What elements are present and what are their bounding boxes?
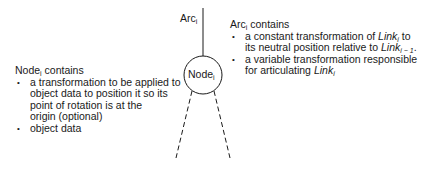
node-bullet-transformation: a transformation to be applied to object… xyxy=(15,77,181,123)
bullet-line: for articulating Linki xyxy=(245,65,417,77)
link-term: Link xyxy=(314,64,333,76)
text: its neutral position relative to xyxy=(245,41,381,53)
link-sub: i xyxy=(333,70,335,77)
text: for articulating xyxy=(245,64,314,76)
bullet-line: object data to position it so its xyxy=(30,88,181,100)
bullet-line: origin (optional) xyxy=(30,111,181,123)
arc-label-base: Arc xyxy=(180,12,196,24)
arc-heading-base: Arc xyxy=(230,18,246,30)
node-label: Nodei xyxy=(188,68,215,80)
text: a constant transformation of xyxy=(245,30,378,42)
bullet-line: object data xyxy=(30,123,181,135)
arc-bullet-variable-transformation: a variable transformation responsible fo… xyxy=(230,54,417,77)
node-bullet-object-data: object data xyxy=(15,123,181,135)
arc-info-bullets: a constant transformation of Linki to it… xyxy=(230,31,417,77)
arc-label-sub: i xyxy=(196,18,198,25)
arc-label: Arci xyxy=(180,13,197,25)
node-info-heading: Nodei contains xyxy=(15,65,181,77)
arc-bullet-constant-transformation: a constant transformation of Linki to it… xyxy=(230,31,417,54)
child-arc-right-dashed xyxy=(214,91,230,158)
arc-heading-rest: contains xyxy=(247,18,289,30)
text: . xyxy=(414,41,417,53)
link-term: Link xyxy=(381,41,400,53)
text: to xyxy=(399,30,411,42)
node-heading-rest: contains xyxy=(42,64,84,76)
node-label-base: Node xyxy=(188,68,213,80)
node-heading-base: Node xyxy=(15,64,40,76)
arc-info-block: Arci contains a constant transformation … xyxy=(230,19,417,77)
node-label-sub: i xyxy=(213,74,215,81)
node-info-bullets: a transformation to be applied to object… xyxy=(15,77,181,135)
link-term: Link xyxy=(378,30,397,42)
bullet-line: its neutral position relative to Linki −… xyxy=(245,42,417,54)
node-info-block: Nodei contains a transformation to be ap… xyxy=(15,65,181,134)
